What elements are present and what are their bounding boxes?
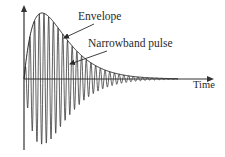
time-axis-label: Time	[193, 80, 215, 91]
narrowband-pulse-diagram: Envelope Narrowband pulse Time	[0, 0, 225, 157]
narrowband-pulse-label: Narrowband pulse	[88, 38, 173, 50]
envelope-label: Envelope	[78, 11, 121, 23]
pulse-pointer-arrow	[70, 51, 107, 64]
y-axis-arrowhead-icon	[21, 5, 27, 12]
envelope-pointer-arrow	[64, 24, 94, 38]
plot-area	[0, 0, 225, 157]
